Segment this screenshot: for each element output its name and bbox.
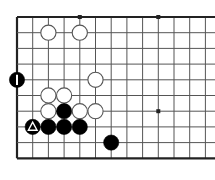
stone-disc [41,88,56,103]
stone-disc [72,25,87,40]
stone-disc [57,88,72,103]
go-diagram [0,0,215,180]
stone-disc [72,119,87,134]
stone-disc [57,104,72,119]
stone-disc [41,25,56,40]
stone-disc [104,135,119,150]
stone-disc [41,104,56,119]
stone-black[interactable] [72,119,87,134]
stone-disc [41,119,56,134]
stone-disc [88,72,103,87]
stone-black[interactable] [25,119,40,134]
stone-disc [88,104,103,119]
stone-white[interactable] [41,88,56,103]
stone-black[interactable] [41,119,56,134]
stone-disc [57,119,72,134]
stone-white[interactable] [72,25,87,40]
stone-white[interactable] [57,88,72,103]
stone-white[interactable] [88,104,103,119]
stone-black[interactable] [57,119,72,134]
stone-white[interactable] [72,104,87,119]
go-board[interactable] [0,0,215,180]
stone-white[interactable] [41,25,56,40]
star-point-icon [156,15,160,19]
stone-black[interactable] [9,72,24,87]
star-point-icon [78,15,82,19]
star-point-icon [156,109,160,113]
stone-black[interactable] [104,135,119,150]
stone-white[interactable] [41,104,56,119]
stone-black[interactable] [57,104,72,119]
stone-disc [72,104,87,119]
stone-white[interactable] [88,72,103,87]
